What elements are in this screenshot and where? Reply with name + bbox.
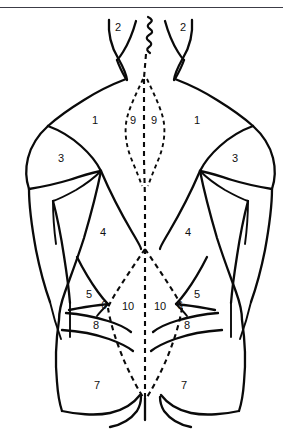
region-label-7-left: 7 (94, 380, 100, 391)
region-label-6-right: 6 (177, 301, 183, 311)
upper-arm-left-outer (29, 189, 50, 302)
flank-right-upper-border (176, 257, 207, 304)
region-label-7-right: 7 (181, 380, 187, 391)
lumbar-diamond-left-lower (108, 308, 143, 397)
upper-arm-right-outer (251, 189, 272, 302)
flank-left-upper-border (77, 257, 108, 304)
shoulder-slope-left (48, 79, 126, 126)
region-label-8-left: 8 (93, 320, 99, 331)
shoulder-slope-right (175, 79, 253, 126)
deltoid-left-insertion-crease (53, 171, 101, 201)
deltoid-right-outer (253, 126, 275, 189)
deltoid-right-upper-border (200, 126, 253, 171)
torso-left-side (59, 171, 101, 320)
region-label-4-left: 4 (100, 227, 106, 238)
iliac-crest-right-lower (151, 330, 222, 351)
region-label-3-left: 3 (58, 153, 64, 164)
latissimus-right-border (160, 171, 200, 249)
torso-right-side (200, 171, 242, 320)
region-label-4-right: 4 (185, 227, 191, 238)
region-label-3-right: 3 (232, 153, 238, 164)
gluteal-left-lower (62, 395, 140, 414)
gluteal-right-lower (161, 395, 239, 414)
deltoid-right-insertion-crease (200, 171, 248, 201)
region-label-2-left: 2 (115, 22, 121, 33)
region-label-2-right: 2 (180, 22, 186, 33)
region-label-6-left: 6 (101, 301, 107, 311)
iliac-crest-left-lower (62, 330, 133, 351)
region-label-8-right: 8 (184, 320, 190, 331)
region-label-1-right: 1 (194, 115, 200, 126)
region-label-5-left: 5 (86, 289, 92, 300)
deltoid-left-upper-border (48, 126, 101, 171)
paraspinal-left-outline (126, 79, 143, 186)
latissimus-left-border (101, 171, 141, 249)
region-label-9-left: 9 (130, 115, 136, 126)
deltoid-left-outer (26, 126, 48, 189)
paraspinal-right-outline (147, 79, 164, 186)
region-label-10-right: 10 (154, 301, 166, 312)
body-outline-svg (0, 0, 283, 442)
cervical-spine-scribble (147, 17, 152, 53)
region-label-9-right: 9 (151, 115, 157, 126)
region-label-5-right: 5 (194, 289, 200, 300)
region-label-10-left: 10 (122, 301, 134, 312)
region-label-1-left: 1 (92, 115, 98, 126)
midline-dashed-cervical (144, 54, 146, 78)
midline-dashed-thoracic (144, 79, 145, 248)
anatomical-figure: 2 2 1 9 9 1 3 3 4 4 5 5 6 6 10 10 8 8 7 … (0, 0, 283, 442)
